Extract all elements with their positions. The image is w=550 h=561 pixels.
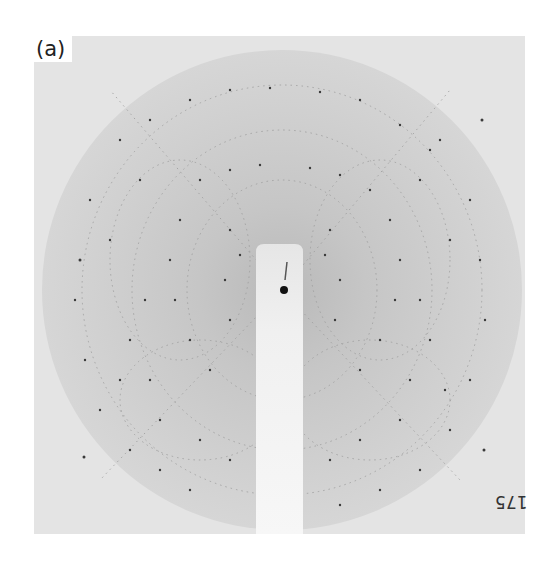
diffraction-pattern — [0, 0, 550, 561]
diffraction-figure: (a) 175 — [0, 0, 550, 561]
panel-label: (a) — [33, 36, 72, 62]
film-number: 175 — [495, 492, 527, 512]
beam-stop — [256, 244, 303, 534]
direct-beam-spot — [280, 286, 288, 294]
